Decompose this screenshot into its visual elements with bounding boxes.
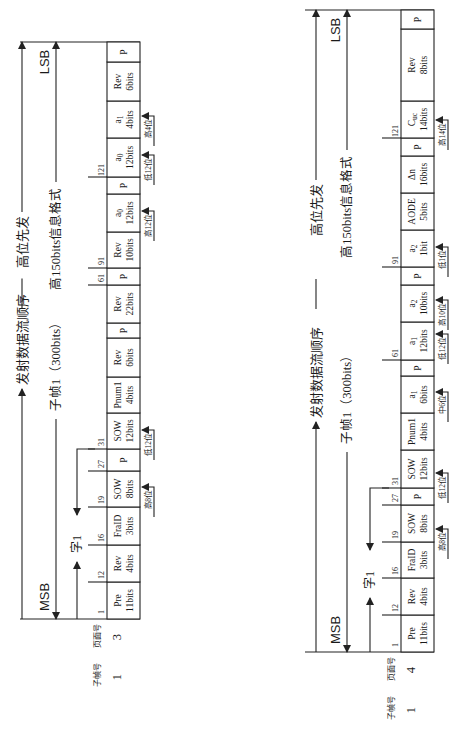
field-cell-sow: SOW8bits — [401, 505, 434, 542]
tick-number: 12 — [97, 571, 106, 579]
field-bit-width: 8bits — [419, 55, 429, 74]
bit-annotation: 中6位 — [436, 392, 448, 422]
header-transmit-order: 发射数据流顺序高位先发 — [309, 184, 324, 418]
field-bit-width: 4bits — [125, 385, 135, 404]
footer-labels: 页面号子帧号31 — [92, 624, 125, 687]
tick-number: 91 — [97, 257, 106, 265]
field-cell-pnum1: Pnum14bits — [401, 413, 434, 450]
tick-number: 16 — [97, 534, 106, 542]
field-name: a1 — [407, 337, 419, 345]
field-cell-cuc: Cuc14bits — [401, 101, 434, 138]
field-name: P — [119, 457, 129, 462]
page-number-label: 页面号 — [93, 624, 102, 648]
footer-labels: 页面号子帧号41 — [386, 657, 419, 720]
bit-tick: 19 — [88, 496, 107, 507]
bit-tick: 31 — [382, 477, 401, 488]
field-cell-p: P — [107, 177, 140, 194]
diagram-canvas: 发射数据流顺序高位先发子帧1（300bits）高150bits信息格式MSBLS… — [0, 0, 467, 744]
tick-number: 121 — [97, 164, 106, 176]
field-cell-pre: Pre11bits — [107, 582, 140, 619]
subframe-number-value: 1 — [404, 707, 418, 713]
field-name: FraID — [407, 549, 417, 572]
word1-label: 字1 — [362, 571, 377, 589]
annotation-label: 低12位 — [437, 476, 447, 499]
field-bit-width: 10bits — [419, 292, 429, 316]
diagram-right: 发射数据流顺序高位先发子帧1（300bits）高150bits信息格式MSBLS… — [305, 10, 448, 720]
field-cell-rev: Rev6bits — [107, 338, 140, 377]
field-name: P — [119, 49, 129, 54]
field-cell-a0: a012bits — [107, 194, 140, 232]
field-name: Rev — [113, 242, 123, 258]
field-cell-fraid: FraID3bits — [401, 542, 434, 578]
field-bit-width: 12bits — [419, 329, 429, 353]
field-bit-width: 8bits — [125, 479, 135, 498]
field-cell-p: P — [107, 323, 140, 338]
field-name: Pre — [113, 594, 123, 607]
bit-tick: 12 — [382, 604, 401, 615]
field-name: Pnum1 — [113, 381, 123, 408]
field-cell-rev: Rev10bits — [107, 232, 140, 268]
field-name: Cuc — [407, 112, 419, 126]
field-cell-sow: SOW8bits — [107, 471, 140, 507]
bit-annotation: 高12位 — [142, 211, 154, 241]
subframe-number-label: 子帧号 — [386, 696, 396, 720]
field-bit-width: 6bits — [125, 348, 135, 367]
field-name: P — [119, 328, 129, 333]
field-cell-p: P — [107, 42, 140, 62]
field-name: SOW — [407, 458, 417, 479]
subframe-number-value: 1 — [110, 674, 124, 680]
field-name: Δn — [407, 169, 417, 180]
field-cell-p: P — [107, 449, 140, 471]
field-bit-width: 12bits — [125, 201, 135, 225]
tick-number: 91 — [391, 256, 400, 264]
field-name: SOW — [407, 513, 417, 534]
field-name: P — [119, 274, 129, 279]
field-cell-sow: SOW12bits — [401, 450, 434, 488]
field-name: FraID — [113, 515, 123, 538]
word1-label: 字1 — [69, 535, 84, 553]
format-label: 高150bits信息格式 — [339, 156, 354, 258]
field-cell-rev: Rev4bits — [107, 545, 140, 582]
bit-annotations: 高8位低12位中6位低12位高10位低1位高14位 — [436, 120, 448, 559]
page-number-value: 3 — [110, 634, 124, 640]
annotation-label: 高8位 — [143, 490, 153, 509]
field-name: SOW — [113, 478, 123, 499]
bit-annotation: 低12位 — [142, 430, 154, 460]
bit-tick: 61 — [382, 349, 401, 360]
bit-tick: 16 — [382, 567, 401, 578]
bit-annotation: 高8位 — [436, 529, 448, 559]
field-cell-fraid: FraID3bits — [107, 507, 140, 545]
transmit-order-label: 发射数据流顺序 — [309, 327, 324, 418]
field-bit-width: 6bits — [125, 72, 135, 91]
subframe-label: 子帧1（300bits） — [49, 316, 63, 411]
field-name: a0 — [113, 209, 125, 217]
annotation-label: 低12位 — [143, 158, 153, 181]
header-subframe-format: 子帧1（300bits）高150bits信息格式 — [48, 188, 63, 411]
annotation-label: 高12位 — [143, 214, 153, 237]
tick-number: 12 — [391, 604, 400, 612]
bit-annotation: 低12位 — [436, 334, 448, 364]
field-cell-a1: a112bits — [401, 322, 434, 360]
annotation-label: 低12位 — [143, 433, 153, 456]
field-name: P — [413, 17, 423, 22]
subframe-label: 子帧1（300bits） — [340, 349, 354, 444]
lsb-label: LSB — [37, 50, 52, 75]
field-bit-width: 11bits — [125, 589, 135, 612]
field-cell-p: P — [401, 138, 434, 156]
diagram-left: 发射数据流顺序高位先发子帧1（300bits）高150bits信息格式MSBLS… — [15, 42, 155, 687]
page-number-label: 页面号 — [387, 657, 396, 681]
bit-annotation: 高10位 — [436, 300, 448, 330]
field-cell-p: P — [401, 267, 434, 285]
field-name: P — [413, 144, 423, 149]
bit-tick: 1 — [391, 643, 400, 647]
field-name: Rev — [113, 296, 123, 312]
field-name: Pre — [407, 627, 417, 640]
tick-number: 121 — [391, 125, 400, 137]
bit-tick: 91 — [382, 256, 401, 267]
field-name: Rev — [113, 350, 123, 366]
annotation-label: 高4位 — [143, 119, 153, 138]
page-number-value: 4 — [404, 666, 418, 673]
field-bit-width: 4bits — [419, 587, 429, 606]
annotation-label: 低1位 — [437, 250, 447, 269]
tick-number: 27 — [97, 460, 106, 468]
